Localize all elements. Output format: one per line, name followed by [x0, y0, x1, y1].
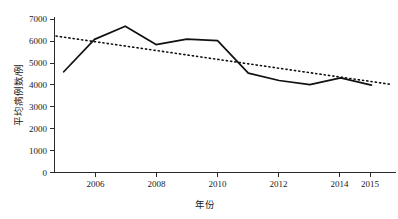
x-axis-title: 年份: [195, 199, 215, 210]
average-cases-series: [64, 26, 372, 85]
y-axis-ticks: 0 1000 2000 3000 4000 5000 6000 7000: [29, 14, 55, 177]
y-tick-label-5000: 5000: [29, 58, 48, 68]
y-tick-label-7000: 7000: [29, 14, 48, 24]
x-tick-label-2006: 2006: [87, 179, 106, 189]
x-tick-label-2010: 2010: [209, 179, 228, 189]
y-tick-label-6000: 6000: [29, 36, 48, 46]
x-tick-label-2012: 2012: [270, 179, 288, 189]
y-tick-label-0: 0: [43, 168, 48, 178]
y-axis-title: 平均病例数/例: [13, 64, 24, 127]
x-tick-label-2015: 2015: [361, 179, 380, 189]
axis-lines: [55, 17, 397, 173]
x-tick-label-2014: 2014: [331, 179, 350, 189]
chart-figure: 0 1000 2000 3000 4000 5000 6000 7000 200…: [0, 0, 398, 219]
y-tick-label-3000: 3000: [29, 102, 48, 112]
y-tick-label-1000: 1000: [29, 146, 48, 156]
line-chart-canvas: 0 1000 2000 3000 4000 5000 6000 7000 200…: [0, 0, 398, 219]
x-tick-label-2008: 2008: [148, 179, 167, 189]
x-axis-ticks: 2006 2008 2010 2012 2014 2015: [87, 173, 380, 190]
y-tick-label-2000: 2000: [29, 124, 48, 134]
y-tick-label-4000: 4000: [29, 80, 48, 90]
